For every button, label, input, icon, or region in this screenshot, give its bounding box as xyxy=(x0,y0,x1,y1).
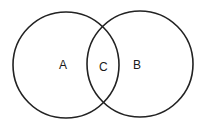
venn-diagram: A C B xyxy=(0,0,203,129)
label-c: C xyxy=(99,60,108,74)
label-b: B xyxy=(133,58,141,72)
label-a: A xyxy=(59,58,67,72)
